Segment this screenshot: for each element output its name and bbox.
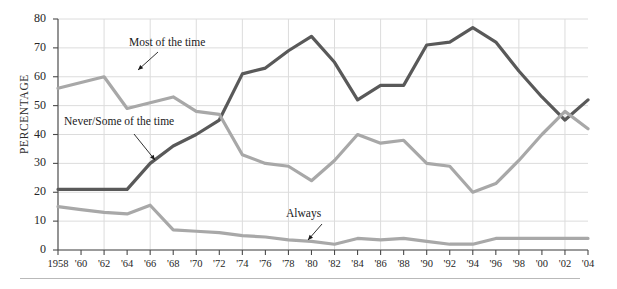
series-label-never-some-of-the-time: Never/Some of the time xyxy=(64,115,174,127)
y-tick-label: 30 xyxy=(20,155,46,170)
series-line xyxy=(58,205,588,244)
y-tick-label: 50 xyxy=(20,98,46,113)
series-line xyxy=(58,28,588,190)
y-tick-label: 10 xyxy=(20,213,46,228)
x-tick-label: '04 xyxy=(568,258,608,269)
series-label-always: Always xyxy=(286,207,321,219)
y-tick-label: 80 xyxy=(20,11,46,26)
footer-divider xyxy=(20,278,580,279)
chart-figure: PERCENTAGE Most of the time Never/Some o… xyxy=(0,0,617,289)
y-tick-label: 20 xyxy=(20,184,46,199)
y-tick-label: 40 xyxy=(20,127,46,142)
series-label-most-of-the-time: Most of the time xyxy=(129,36,205,48)
y-tick-label: 60 xyxy=(20,69,46,84)
y-tick-label: 70 xyxy=(20,40,46,55)
y-tick-label: 0 xyxy=(20,242,46,257)
line-chart-plot xyxy=(0,0,617,289)
